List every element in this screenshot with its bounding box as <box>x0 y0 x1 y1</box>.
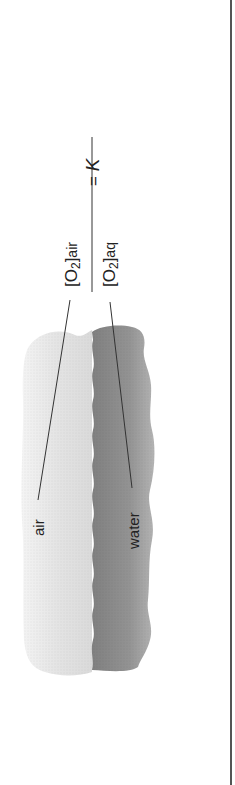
equals-sign: = <box>84 176 103 186</box>
numerator-species: [O <box>62 269 81 287</box>
denominator-subscript: 2 <box>107 262 121 269</box>
denominator-phase: aq <box>102 242 118 258</box>
constant-k: K <box>82 159 103 172</box>
air-label-text: air <box>30 519 47 536</box>
equation-rhs: = K <box>82 159 104 186</box>
air-label: air <box>30 519 47 536</box>
numerator-subscript: 2 <box>69 262 83 269</box>
numerator-phase: air <box>64 242 80 258</box>
diagram-canvas: air water [O2]air [O2]aq = K <box>0 0 235 785</box>
water-label: water <box>125 512 142 549</box>
denominator-species: [O <box>100 269 119 287</box>
denominator-bracket: ] <box>100 258 119 263</box>
numerator-bracket: ] <box>62 258 81 263</box>
page-border-rule <box>230 0 232 785</box>
air-water-illustration <box>0 0 235 785</box>
water-label-text: water <box>125 512 142 549</box>
equation-denominator: [O2]aq <box>100 242 121 287</box>
equation-numerator: [O2]air <box>62 242 83 287</box>
